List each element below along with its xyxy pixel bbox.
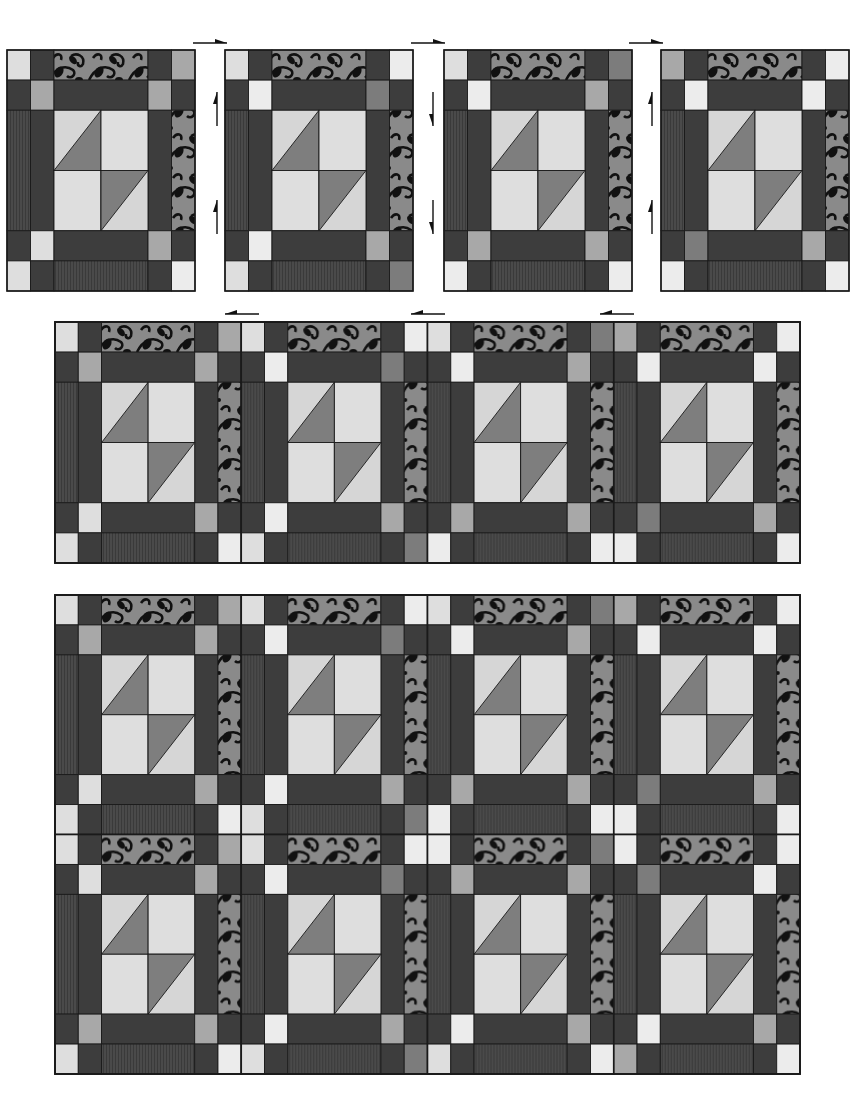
corner-square: [218, 322, 241, 352]
corner-square: [404, 1044, 427, 1074]
plain-square: [491, 171, 538, 231]
stripe-strip: [428, 894, 451, 1014]
stripe-strip: [614, 382, 637, 503]
stripe-strip: [241, 894, 264, 1014]
dark-patch: [590, 1014, 613, 1044]
sashing-bar: [753, 894, 776, 1014]
plain-square: [521, 894, 568, 954]
dark-patch: [585, 50, 609, 80]
inner-square: [78, 352, 101, 382]
dark-patch: [567, 595, 590, 625]
print-strip: [102, 322, 195, 352]
dark-patch: [381, 1044, 404, 1074]
plain-square: [521, 655, 568, 715]
dark-patch: [404, 352, 427, 382]
dark-patch: [614, 625, 637, 655]
sashing-bar: [265, 894, 288, 1014]
sashing-bar: [272, 80, 366, 110]
print-strip: [218, 382, 241, 503]
dark-patch: [451, 805, 474, 835]
inner-square: [468, 80, 492, 110]
sashing-bar: [54, 80, 148, 110]
stripe-strip: [614, 894, 637, 1014]
dark-patch: [777, 352, 800, 382]
dark-patch: [585, 261, 609, 291]
print-strip: [218, 894, 241, 1014]
print-strip: [491, 50, 585, 80]
corner-square: [590, 595, 613, 625]
dark-patch: [241, 503, 264, 533]
print-strip: [404, 382, 427, 503]
inner-square: [381, 1014, 404, 1044]
corner-square: [590, 533, 613, 563]
dark-patch: [637, 595, 660, 625]
corner-square: [444, 50, 468, 80]
quilt-block: [7, 50, 195, 291]
corner-square: [614, 595, 637, 625]
corner-square: [661, 50, 685, 80]
dark-patch: [390, 80, 414, 110]
dark-patch: [451, 322, 474, 352]
plain-square: [474, 954, 521, 1014]
stripe-strip: [288, 1044, 381, 1074]
sashing-bar: [148, 110, 172, 231]
sashing-bar: [585, 110, 609, 231]
plain-square: [101, 110, 148, 170]
sashing-bar: [753, 382, 776, 503]
sashing-bar: [660, 775, 753, 805]
sashing-bar: [102, 775, 195, 805]
corner-square: [172, 261, 196, 291]
inner-square: [78, 1014, 101, 1044]
inner-square: [381, 775, 404, 805]
inner-square: [802, 80, 826, 110]
dark-patch: [381, 805, 404, 835]
inner-square: [567, 503, 590, 533]
print-strip: [708, 50, 802, 80]
plain-square: [707, 382, 754, 442]
corner-square: [614, 1044, 637, 1074]
inner-square: [567, 352, 590, 382]
inner-square: [451, 625, 474, 655]
sashing-bar: [102, 352, 195, 382]
corner-square: [428, 835, 451, 865]
dark-patch: [148, 261, 172, 291]
dark-patch: [78, 595, 101, 625]
plain-square: [521, 382, 568, 442]
print-strip: [102, 595, 195, 625]
inner-square: [585, 231, 609, 261]
print-strip: [474, 595, 567, 625]
print-strip: [288, 595, 381, 625]
corner-square: [428, 533, 451, 563]
corner-square: [614, 533, 637, 563]
dark-patch: [225, 80, 249, 110]
dark-patch: [249, 50, 273, 80]
plain-square: [538, 110, 585, 170]
dark-patch: [381, 835, 404, 865]
dark-patch: [249, 261, 273, 291]
inner-square: [567, 625, 590, 655]
corner-square: [590, 835, 613, 865]
stripe-strip: [272, 261, 366, 291]
sashing-bar: [78, 382, 101, 503]
plain-square: [102, 715, 149, 775]
dark-patch: [614, 352, 637, 382]
dark-patch: [777, 1014, 800, 1044]
corner-square: [172, 50, 196, 80]
dark-patch: [777, 625, 800, 655]
dark-patch: [614, 503, 637, 533]
stripe-strip: [444, 110, 468, 231]
inner-square: [637, 625, 660, 655]
inner-square: [753, 864, 776, 894]
stripe-strip: [474, 1044, 567, 1074]
dark-patch: [78, 533, 101, 563]
corner-square: [614, 835, 637, 865]
arrow-down-icon: [429, 200, 433, 234]
plain-square: [319, 110, 366, 170]
inner-square: [567, 864, 590, 894]
dark-patch: [78, 835, 101, 865]
quilt-diagram: [0, 0, 864, 1096]
corner-square: [428, 1044, 451, 1074]
sashing-bar: [195, 382, 218, 503]
sashing-bar: [567, 894, 590, 1014]
corner-square: [777, 1044, 800, 1074]
